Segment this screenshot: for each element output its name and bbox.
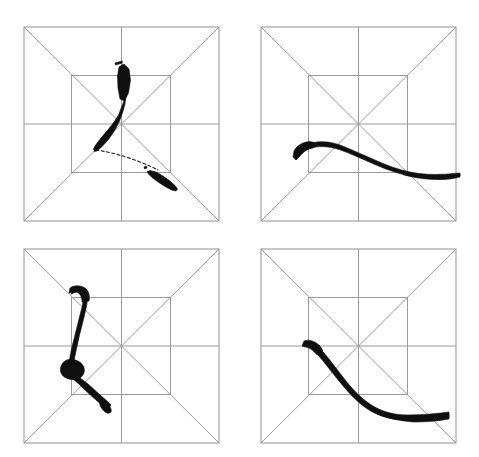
- trajectory-path: [306, 342, 449, 421]
- panel-top-right[interactable]: [239, 0, 479, 228]
- trajectory-tick-marker: [144, 166, 147, 169]
- panel-bottom-left-plot: [0, 228, 239, 457]
- trajectory-left-cap: [293, 142, 314, 161]
- trajectory-node-upper: [118, 64, 131, 101]
- trajectory-bottom-right: [302, 340, 449, 422]
- grid-group-top-left: [24, 27, 219, 221]
- trajectory-dashed-segment: [96, 150, 158, 170]
- grid-group-bottom-left: [24, 249, 219, 443]
- grid-group-bottom-right: [261, 249, 456, 443]
- panel-bottom-left[interactable]: [0, 228, 239, 457]
- panel-grid: [0, 0, 479, 457]
- trajectory-top-right: [293, 142, 460, 180]
- trajectory-lower-blob: [147, 171, 178, 192]
- trajectory-left-cap: [302, 340, 323, 355]
- trajectory-lower-tip: [100, 400, 112, 413]
- panel-top-right-plot: [239, 0, 479, 228]
- panel-bottom-right[interactable]: [239, 228, 479, 457]
- panel-bottom-right-plot: [239, 228, 479, 457]
- trajectory-path: [296, 142, 460, 179]
- figure-canvas: [0, 0, 479, 457]
- panel-top-left[interactable]: [0, 0, 239, 228]
- grid-group-top-right: [261, 27, 456, 221]
- panel-top-left-plot: [0, 0, 239, 228]
